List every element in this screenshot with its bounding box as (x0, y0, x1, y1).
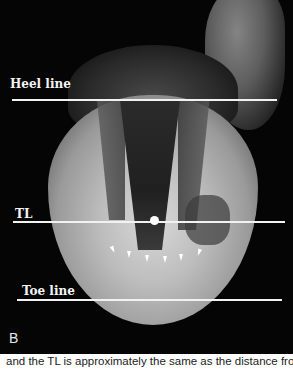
arrow-icon (127, 251, 131, 258)
toe-line (17, 299, 282, 301)
sole-dark-patch (185, 195, 230, 245)
hoof-photo: Heel line TL Toe line B (0, 0, 293, 354)
tl-center-dot (150, 216, 159, 225)
heel-line-label: Heel line (10, 78, 71, 90)
toe-line-label: Toe line (22, 285, 75, 297)
caption-text: and the TL is approximately the same as … (6, 356, 293, 368)
tl-line (13, 221, 285, 223)
arrow-icon (163, 256, 167, 263)
arrow-icon (145, 255, 149, 262)
panel-label: B (9, 331, 18, 345)
arrow-icon (179, 254, 183, 261)
heel-line (12, 99, 277, 101)
tl-label: TL (15, 208, 32, 220)
